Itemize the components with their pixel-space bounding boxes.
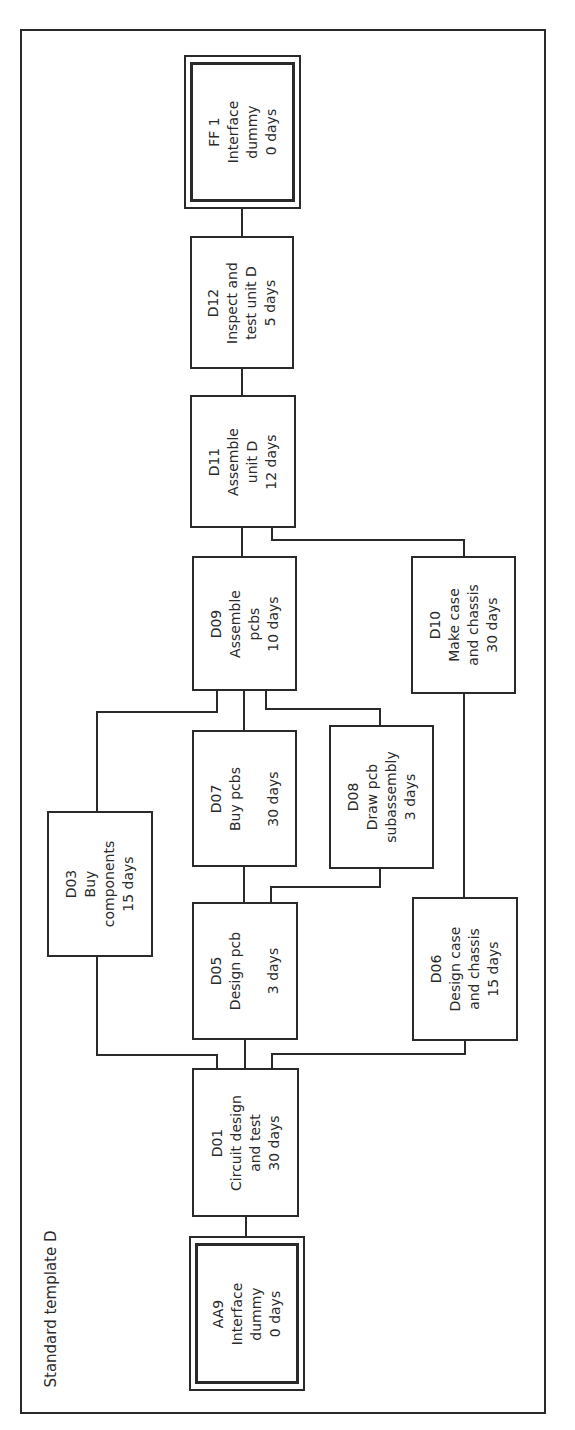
connector-d01-d03-a bbox=[96, 955, 98, 1056]
node-aa9[interactable]: AA9 Interface dummy 0 days bbox=[195, 1243, 299, 1384]
node-ff1[interactable]: FF 1 Interface dummy 0 days bbox=[190, 62, 295, 202]
node-ff1-label: FF 1 Interface dummy 0 days bbox=[205, 101, 281, 164]
node-d06[interactable]: D06 Design case and chassis 15 days bbox=[412, 897, 518, 1041]
node-d01-label: D01 Circuit design and test 30 days bbox=[208, 1095, 284, 1191]
node-d06-label: D06 Design case and chassis 15 days bbox=[427, 927, 503, 1012]
connector-d01-d03-c bbox=[216, 1054, 218, 1069]
connector-d05-d07 bbox=[243, 865, 245, 903]
connector-d10-d11-b bbox=[271, 539, 465, 541]
connector-d05-d08-c bbox=[270, 886, 272, 903]
connector-d01-d06-b bbox=[271, 1053, 466, 1055]
connector-d08-d09-c bbox=[379, 708, 381, 726]
node-d08[interactable]: D08 Draw pcb subassembly 3 days bbox=[329, 725, 434, 869]
connector-d11-d12 bbox=[241, 367, 243, 397]
node-d07-label: D07 Buy pcbs 30 days bbox=[207, 767, 283, 831]
connector-d08-d09-a bbox=[265, 689, 267, 710]
node-d12[interactable]: D12 Inspect and test unit D 5 days bbox=[190, 236, 294, 369]
connector-d03-d09-c bbox=[96, 711, 98, 812]
connector-aa9-d01 bbox=[245, 1215, 247, 1237]
node-d12-label: D12 Inspect and test unit D 5 days bbox=[204, 262, 280, 344]
connector-d01-d06-c bbox=[271, 1053, 273, 1069]
connector-d06-d10 bbox=[463, 692, 465, 898]
connector-d05-d08-a bbox=[379, 867, 381, 888]
template-title: Standard template D bbox=[40, 1218, 62, 1400]
node-d05-label: D05 Design pcb 3 days bbox=[207, 932, 283, 1010]
node-aa9-label: AA9 Interface dummy 0 days bbox=[209, 1282, 285, 1345]
connector-d07-d09 bbox=[243, 689, 245, 731]
connector-d03-d09-b bbox=[96, 711, 218, 713]
node-d10[interactable]: D10 Make case and chassis 30 days bbox=[411, 556, 516, 694]
connector-d09-d11 bbox=[241, 526, 243, 557]
node-d09[interactable]: D09 Assemble pcbs 10 days bbox=[192, 556, 297, 691]
connector-d03-d09-a bbox=[216, 689, 218, 713]
node-d09-label: D09 Assemble pcbs 10 days bbox=[207, 590, 283, 658]
node-d01[interactable]: D01 Circuit design and test 30 days bbox=[192, 1068, 299, 1217]
node-d05[interactable]: D05 Design pcb 3 days bbox=[192, 902, 298, 1040]
node-d07[interactable]: D07 Buy pcbs 30 days bbox=[192, 730, 297, 867]
node-d10-label: D10 Make case and chassis 30 days bbox=[426, 584, 502, 666]
connector-d08-d09-b bbox=[265, 708, 381, 710]
node-d11-label: D11 Assemble unit D 12 days bbox=[205, 428, 281, 496]
connector-d05-d08-b bbox=[270, 886, 381, 888]
connector-d12-ff1 bbox=[241, 207, 243, 237]
node-d11[interactable]: D11 Assemble unit D 12 days bbox=[190, 395, 296, 528]
node-d03-label: D03 Buy components 15 days bbox=[62, 841, 138, 928]
connector-d01-d05 bbox=[244, 1038, 246, 1069]
node-d03[interactable]: D03 Buy components 15 days bbox=[47, 811, 153, 957]
node-d08-label: D08 Draw pcb subassembly 3 days bbox=[344, 751, 420, 843]
connector-d01-d03-b bbox=[96, 1054, 218, 1056]
